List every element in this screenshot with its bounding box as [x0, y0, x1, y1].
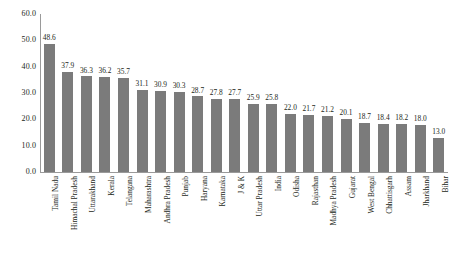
x-label-slot: Madhya Pradesh	[318, 176, 337, 256]
y-axis-tick-label: 20.0	[0, 115, 36, 123]
x-label-slot: Karnataka	[207, 176, 226, 256]
bar-value-label: 13.0	[432, 128, 445, 135]
bar[interactable]	[359, 123, 370, 172]
bar[interactable]	[137, 90, 148, 172]
x-label-slot: Chhattisgarh	[374, 176, 393, 256]
y-axis-tick-label: 50.0	[0, 36, 36, 44]
bar[interactable]	[81, 76, 92, 172]
bar[interactable]	[229, 99, 240, 172]
x-label-slot: Uttarakhand	[77, 176, 96, 256]
y-axis-tick-label: 40.0	[0, 63, 36, 71]
x-axis-category-labels: Tamil NaduHimachal PradeshUttarakhandKer…	[40, 176, 448, 256]
x-axis-category-label: Bihar	[442, 176, 449, 192]
x-label-slot: Tamil Nadu	[40, 176, 59, 256]
x-label-slot: West Bengal	[355, 176, 374, 256]
bar[interactable]	[192, 96, 203, 172]
bar-slot: 25.8	[263, 14, 282, 172]
bar[interactable]	[415, 125, 426, 172]
bar-value-label: 18.2	[395, 114, 408, 121]
bar-series: 48.637.936.336.235.731.130.930.328.727.8…	[40, 14, 448, 172]
x-label-slot: Punjab	[170, 176, 189, 256]
bar-slot: 36.2	[96, 14, 115, 172]
bar-value-label: 22.0	[284, 104, 297, 111]
bar[interactable]	[62, 72, 73, 172]
bar[interactable]	[248, 104, 259, 172]
bar-slot: 30.9	[151, 14, 170, 172]
bar-slot: 31.1	[133, 14, 152, 172]
bar[interactable]	[44, 44, 55, 172]
bar-value-label: 18.4	[377, 114, 390, 121]
bar[interactable]	[341, 119, 352, 172]
bar-slot: 36.3	[77, 14, 96, 172]
bar-value-label: 37.9	[61, 62, 74, 69]
x-label-slot: J & K	[225, 176, 244, 256]
bar-slot: 21.2	[318, 14, 337, 172]
bar-slot: 27.8	[207, 14, 226, 172]
x-label-slot: Telangana	[114, 176, 133, 256]
y-axis-tick-labels: 0.010.020.030.040.050.060.0	[0, 14, 36, 172]
bar-value-label: 27.7	[228, 89, 241, 96]
bar-value-label: 18.7	[358, 113, 371, 120]
bar[interactable]	[285, 114, 296, 172]
bar[interactable]	[118, 78, 129, 172]
x-label-slot: Bihar	[429, 176, 448, 256]
bar-slot: 37.9	[59, 14, 78, 172]
bar-slot: 48.6	[40, 14, 59, 172]
y-axis-tick-label: 0.0	[0, 168, 36, 176]
x-label-slot: India	[263, 176, 282, 256]
bar-slot: 27.7	[225, 14, 244, 172]
y-axis-tick-label: 60.0	[0, 10, 36, 18]
bar[interactable]	[303, 115, 314, 172]
bar-chart-figure: 0.010.020.030.040.050.060.0 48.637.936.3…	[0, 0, 462, 259]
bar-value-label: 36.3	[80, 67, 93, 74]
bar-value-label: 48.6	[43, 34, 56, 41]
bar-value-label: 30.9	[154, 81, 167, 88]
x-label-slot: Jharkhand	[411, 176, 430, 256]
x-label-slot: Maharashtra	[133, 176, 152, 256]
bar-slot: 35.7	[114, 14, 133, 172]
bar-slot: 18.2	[392, 14, 411, 172]
bar-value-label: 27.8	[210, 89, 223, 96]
bar-value-label: 25.9	[247, 94, 260, 101]
bar[interactable]	[396, 124, 407, 172]
bar-value-label: 20.1	[340, 109, 353, 116]
x-label-slot: Uttar Pradesh	[244, 176, 263, 256]
bar-slot: 22.0	[281, 14, 300, 172]
bar-slot: 18.0	[411, 14, 430, 172]
bar-value-label: 31.1	[136, 80, 149, 87]
bar[interactable]	[155, 91, 166, 172]
bar-slot: 28.7	[188, 14, 207, 172]
x-label-slot: Odisha	[281, 176, 300, 256]
bar-slot: 20.1	[337, 14, 356, 172]
bar-value-label: 21.7	[302, 105, 315, 112]
x-label-slot: Gujarat	[337, 176, 356, 256]
bar-value-label: 28.7	[191, 87, 204, 94]
bar[interactable]	[211, 99, 222, 172]
x-label-slot: Kerala	[96, 176, 115, 256]
bar-slot: 18.4	[374, 14, 393, 172]
bar[interactable]	[322, 116, 333, 172]
x-label-slot: Andhra Pradesh	[151, 176, 170, 256]
x-label-slot: Rajasthan	[300, 176, 319, 256]
bar[interactable]	[174, 92, 185, 172]
x-axis-line	[40, 172, 448, 173]
bar-value-label: 18.0	[414, 115, 427, 122]
bar[interactable]	[99, 77, 110, 172]
bar-slot: 30.3	[170, 14, 189, 172]
y-axis-tick-label: 10.0	[0, 142, 36, 150]
x-label-slot: Assam	[392, 176, 411, 256]
bar-value-label: 25.8	[265, 94, 278, 101]
bar-value-label: 30.3	[173, 82, 186, 89]
x-label-slot: Himachal Pradesh	[59, 176, 78, 256]
bar[interactable]	[378, 124, 389, 172]
bar[interactable]	[433, 138, 444, 172]
y-axis-tick-label: 30.0	[0, 89, 36, 97]
bar-slot: 21.7	[300, 14, 319, 172]
bar-slot: 13.0	[429, 14, 448, 172]
bar-value-label: 35.7	[117, 68, 130, 75]
bar-value-label: 21.2	[321, 106, 334, 113]
bar-slot: 25.9	[244, 14, 263, 172]
bar[interactable]	[266, 104, 277, 172]
x-label-slot: Haryana	[188, 176, 207, 256]
bar-value-label: 36.2	[98, 67, 111, 74]
